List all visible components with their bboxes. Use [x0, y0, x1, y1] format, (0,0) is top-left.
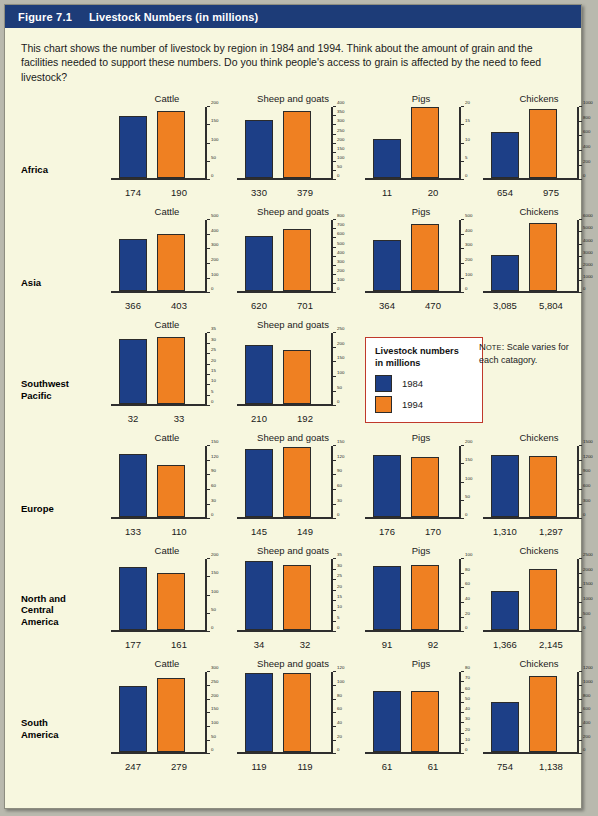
bar-group: [119, 672, 185, 752]
bar-1984: [373, 240, 401, 292]
axis-tick: [579, 121, 582, 122]
bar-group: [491, 446, 557, 517]
bar-group: [119, 446, 185, 517]
value-label-1994: 161: [159, 639, 199, 650]
axis-tick: [207, 631, 210, 632]
plot-area: 050100150200: [365, 446, 453, 519]
value-labels: 9192: [365, 639, 453, 650]
axis-tick: [333, 228, 336, 229]
x-axis-baseline: [365, 752, 459, 754]
bar-1994: [157, 337, 185, 404]
axis-tick: [333, 685, 336, 686]
axis-tick: [207, 395, 210, 396]
region-label: SouthwestPacific: [21, 378, 101, 401]
bar-1994: [529, 676, 557, 752]
legend: Livestock numbersin millions19841994: [355, 319, 481, 432]
y-axis: 05101520253035: [331, 559, 333, 632]
axis-tick-label: 50: [465, 695, 470, 700]
x-axis-baseline: [237, 630, 331, 632]
axis-tick-label: 10: [465, 736, 470, 741]
axis-tick: [207, 278, 210, 279]
panel-pigs: Pigs0100200300400500364470: [355, 206, 481, 319]
axis-tick: [207, 106, 210, 107]
axis-tick-label: 0: [583, 286, 585, 291]
axis-tick-label: 1500: [583, 439, 593, 444]
category-title: Cattle: [101, 93, 227, 104]
chart-row: SouthAmericaCattle0501001502002503002472…: [5, 658, 581, 780]
axis-tick: [207, 595, 210, 596]
value-labels: 1,3662,145: [483, 639, 571, 650]
axis-tick-label: 80: [337, 692, 342, 697]
y-axis: 020406080100120: [331, 672, 333, 754]
axis-tick-label: 1200: [583, 665, 593, 670]
bar-1994: [411, 565, 439, 630]
axis-tick: [207, 460, 210, 461]
category-title: Sheep and goats: [227, 658, 353, 669]
value-labels: 3432: [237, 639, 325, 650]
chart-row: AfricaCattle050100150200174190Sheep and …: [5, 93, 581, 206]
axis-tick: [333, 489, 336, 490]
bar-1994: [411, 224, 439, 291]
panel-pigs: Pigs010203040506070806161: [355, 658, 481, 780]
y-axis: 050100150200250300: [205, 672, 207, 754]
axis-tick: [333, 671, 336, 672]
value-labels: 364470: [365, 300, 453, 311]
axis-tick: [579, 726, 582, 727]
axis-tick-label: 50: [211, 733, 216, 738]
x-axis-baseline: [111, 517, 205, 519]
axis-tick-label: 0: [465, 512, 467, 517]
axis-tick-label: 0: [465, 747, 467, 752]
y-axis: 0100200300400500: [459, 220, 461, 293]
bar-1994: [529, 456, 557, 517]
axis-tick-label: 0: [337, 625, 339, 630]
axis-tick-label: 0: [211, 747, 213, 752]
axis-tick-label: 600: [583, 706, 590, 711]
axis-tick: [461, 278, 464, 279]
axis-tick-label: 150: [211, 706, 218, 711]
axis-tick-label: 200: [583, 158, 590, 163]
plot-area: 020406080100: [365, 559, 453, 632]
axis-tick: [207, 332, 210, 333]
axis-tick: [333, 460, 336, 461]
axis-tick: [207, 504, 210, 505]
axis-tick-label: 40: [465, 596, 470, 601]
axis-tick-label: 5: [337, 614, 339, 619]
axis-tick-label: 400: [337, 100, 344, 105]
bar-1984: [373, 566, 401, 631]
category-title: Sheep and goats: [227, 319, 353, 330]
value-labels: 620701: [237, 300, 325, 311]
axis-tick: [579, 292, 582, 293]
axis-tick-label: 200: [211, 100, 218, 105]
category-title: Chickens: [473, 206, 598, 217]
axis-tick: [333, 445, 336, 446]
axis-tick-label: 300: [465, 242, 472, 247]
value-label-1984: 754: [485, 761, 525, 772]
figure-title: Livestock Numbers (in millions): [89, 11, 258, 23]
value-label-1984: 145: [239, 526, 279, 537]
axis-tick: [333, 347, 336, 348]
plot-area: 050100150200250: [237, 333, 325, 406]
axis-tick: [461, 681, 464, 682]
axis-tick: [333, 265, 336, 266]
y-axis: 020406080100: [459, 559, 461, 632]
value-labels: 174190: [111, 187, 199, 198]
axis-tick: [579, 518, 582, 519]
bar-1984: [119, 567, 147, 630]
axis-tick: [579, 504, 582, 505]
value-label-1984: 366: [113, 300, 153, 311]
axis-tick: [333, 391, 336, 392]
axis-tick: [579, 489, 582, 490]
bar-1984: [491, 591, 519, 630]
axis-tick-label: 30: [211, 497, 216, 502]
value-labels: 330379: [237, 187, 325, 198]
axis-tick-label: 0: [211, 399, 213, 404]
axis-tick-label: 20: [337, 583, 342, 588]
panel-sheep-and-goats: Sheep and goats051015202530353432: [227, 545, 353, 658]
x-axis-baseline: [483, 517, 577, 519]
value-label-1994: 92: [413, 639, 453, 650]
value-label-1994: 1,138: [531, 761, 571, 772]
axis-tick: [461, 500, 464, 501]
bar-1984: [491, 132, 519, 178]
bar-1994: [157, 678, 185, 752]
bar-1984: [491, 255, 519, 292]
